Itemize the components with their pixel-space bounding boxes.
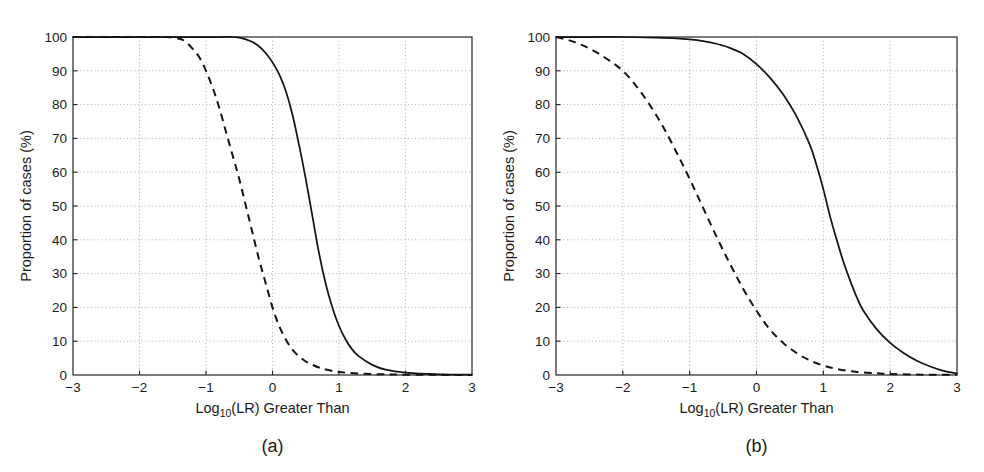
- x-tick-label: 2: [402, 380, 410, 395]
- x-axis-title-panel-b: Log10(LR) Greater Than: [679, 400, 833, 419]
- y-tick-label: 0: [542, 368, 550, 383]
- y-tick-labels-panel-a: 0102030405060708090100: [44, 30, 67, 383]
- y-tick-label: 60: [52, 165, 67, 180]
- y-tick-label: 60: [535, 165, 550, 180]
- y-axis-title-panel-a: Proportion of cases (%): [18, 130, 34, 282]
- x-tick-labels-panel-a: −3−2−10123: [65, 380, 475, 395]
- y-tick-label: 20: [52, 300, 67, 315]
- y-tick-label: 30: [52, 266, 67, 281]
- gridlines-panel-b: [556, 37, 957, 375]
- y-tick-label: 30: [535, 266, 550, 281]
- y-tick-labels-panel-b: 0102030405060708090100: [527, 30, 550, 383]
- panel-b-svg: −3−2−10123 0102030405060708090100 Log10(…: [492, 0, 984, 472]
- panel-caption-a: (a): [262, 436, 284, 456]
- x-axis-title-panel-a: Log10(LR) Greater Than: [195, 400, 349, 419]
- x-tick-label: 0: [753, 380, 761, 395]
- panel-a-svg: −3−2−10123 0102030405060708090100 Log10(…: [0, 0, 492, 472]
- panel-caption-b: (b): [746, 436, 768, 456]
- y-tick-label: 10: [535, 334, 550, 349]
- gridlines-panel-a: [73, 37, 472, 375]
- y-tick-label: 40: [535, 233, 550, 248]
- chart-panel-a: −3−2−10123 0102030405060708090100 Log10(…: [0, 0, 492, 472]
- x-tick-label: −2: [615, 380, 630, 395]
- chart-panel-b: −3−2−10123 0102030405060708090100 Log10(…: [492, 0, 984, 472]
- x-tick-labels-panel-b: −3−2−10123: [548, 380, 960, 395]
- y-tick-label: 20: [535, 300, 550, 315]
- x-tick-label: −2: [132, 380, 147, 395]
- tickmarks-panel-b: [556, 37, 890, 375]
- y-tick-label: 50: [535, 199, 550, 214]
- x-tick-label: −1: [682, 380, 697, 395]
- x-tick-label: 2: [886, 380, 894, 395]
- x-tick-label: 1: [335, 380, 343, 395]
- figure-root: −3−2−10123 0102030405060708090100 Log10(…: [0, 0, 984, 472]
- y-tick-label: 10: [52, 334, 67, 349]
- y-tick-label: 80: [52, 97, 67, 112]
- y-tick-label: 70: [535, 131, 550, 146]
- y-tick-label: 90: [52, 64, 67, 79]
- y-tick-label: 90: [535, 64, 550, 79]
- x-tick-label: 0: [269, 380, 277, 395]
- x-tick-label: 3: [468, 380, 476, 395]
- x-tick-label: 1: [820, 380, 828, 395]
- y-tick-label: 70: [52, 131, 67, 146]
- x-tick-label: −3: [548, 380, 563, 395]
- x-tick-label: 3: [953, 380, 961, 395]
- y-tick-label: 100: [527, 30, 550, 45]
- y-tick-label: 100: [44, 30, 67, 45]
- y-tick-label: 80: [535, 97, 550, 112]
- y-tick-label: 40: [52, 233, 67, 248]
- y-tick-label: 0: [59, 368, 67, 383]
- y-tick-label: 50: [52, 199, 67, 214]
- x-tick-label: −1: [198, 380, 213, 395]
- y-axis-title-panel-b: Proportion of cases (%): [501, 130, 517, 282]
- x-tick-label: −3: [65, 380, 80, 395]
